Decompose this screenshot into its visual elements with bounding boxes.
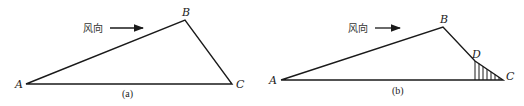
triangle-abc [26, 20, 232, 84]
vertex-label-b: B [439, 13, 448, 26]
vertex-label-a: A [268, 74, 277, 87]
wind-direction-triangle-diagram: 风向 A B C (a) 风向 A B D C (b) [0, 0, 524, 106]
vertex-label-b: B [181, 6, 190, 19]
panel-b: 风向 A B D C (b) [268, 13, 515, 97]
wind-direction-label-b: 风向 [348, 22, 368, 34]
vertex-label-c: C [236, 78, 245, 91]
triangle-abc-with-d [281, 27, 503, 80]
panel-a: 风向 A B C (a) [14, 6, 245, 100]
hatched-shadow-region [475, 61, 499, 80]
wind-direction-label-a: 风向 [83, 22, 103, 34]
vertex-label-d: D [471, 48, 481, 61]
caption-b: (b) [392, 85, 404, 97]
caption-a: (a) [122, 88, 133, 100]
vertex-label-c: C [506, 70, 515, 83]
vertex-label-a: A [14, 78, 23, 91]
